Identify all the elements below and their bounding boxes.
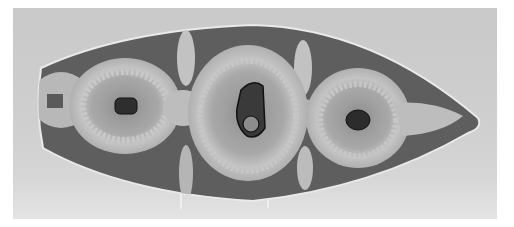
- ceramic-dish-illustration: [13, 8, 497, 219]
- right-roundel-center: [346, 110, 370, 130]
- left-roundel-center: [115, 98, 137, 114]
- photo-frame: [13, 8, 497, 219]
- dish: [31, 25, 479, 201]
